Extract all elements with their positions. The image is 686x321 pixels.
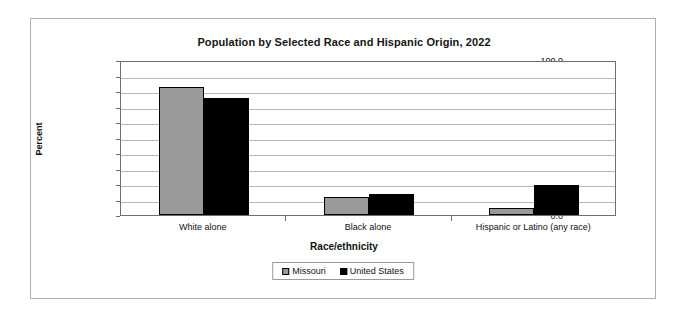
chart-container: Population by Selected Race and Hispanic…	[30, 18, 656, 299]
legend-swatch-missouri-icon	[282, 268, 289, 275]
bar-united-states	[369, 194, 414, 215]
legend-label-missouri: Missouri	[292, 266, 326, 276]
x-axis-category-label: Hispanic or Latino (any race)	[476, 222, 591, 232]
bar-missouri	[159, 87, 204, 215]
bar-united-states	[204, 98, 249, 215]
y-axis-title: Percent	[34, 122, 44, 155]
bar-united-states	[534, 185, 579, 215]
y-axis-tick-mark	[116, 216, 120, 217]
legend-swatch-united-states-icon	[340, 268, 347, 275]
x-axis-tick-mark	[285, 216, 286, 221]
legend-item-missouri: Missouri	[282, 266, 326, 276]
x-axis-tick-mark	[451, 216, 452, 221]
x-axis-category-label: Black alone	[345, 222, 392, 232]
chart-title: Population by Selected Race and Hispanic…	[31, 36, 657, 48]
chart-legend: Missouri United States	[272, 262, 414, 280]
legend-label-united-states: United States	[350, 266, 404, 276]
legend-item-united-states: United States	[340, 266, 404, 276]
gridline	[121, 78, 615, 79]
plot-wrapper: Percent 100.090.080.070.060.050.040.030.…	[71, 61, 616, 216]
plot-area	[120, 61, 616, 216]
x-axis-category-label: White alone	[179, 222, 227, 232]
x-axis-title: Race/ethnicity	[31, 241, 657, 252]
bar-missouri	[324, 197, 369, 215]
bar-missouri	[489, 208, 534, 215]
